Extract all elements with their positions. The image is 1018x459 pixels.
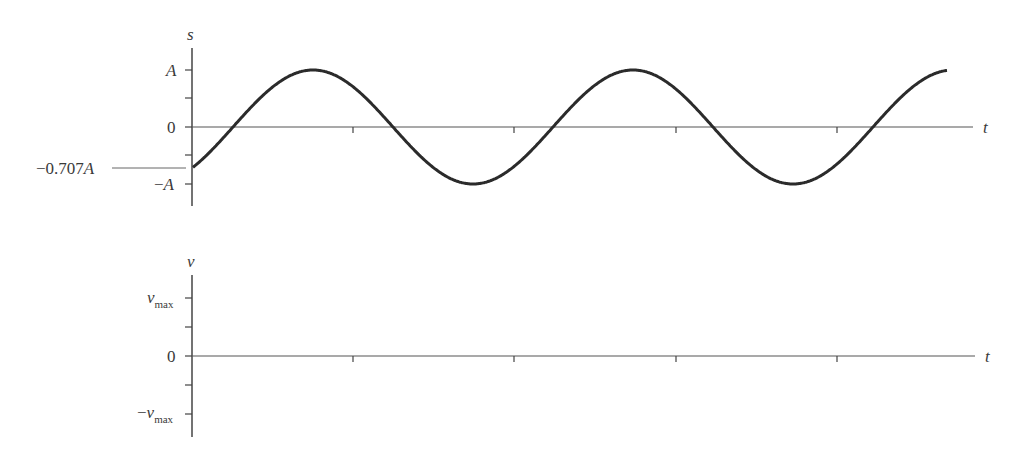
graphs-canvas: s A 0 −A −0.707A t v vmax 0 −vmax t — [0, 0, 1018, 459]
tick-label-A: A — [165, 61, 177, 80]
tick-label-neg-vmax: −vmax — [137, 403, 174, 425]
v-axis-label: v — [187, 252, 195, 271]
velocity-graph: v vmax 0 −vmax t — [137, 252, 991, 437]
v-axis-ticks — [185, 298, 192, 414]
tick-label-negA: −A — [154, 175, 175, 194]
t-axis-top-ticks — [353, 127, 837, 133]
t-axis-label-top: t — [983, 118, 989, 137]
s-axis-ticks — [185, 70, 192, 184]
tick-label-zero-bottom: 0 — [167, 347, 176, 366]
tick-label-zero-top: 0 — [167, 118, 176, 137]
t-axis-label-bottom: t — [985, 347, 991, 366]
s-axis-label: s — [187, 25, 194, 44]
position-graph: s A 0 −A −0.707A t — [36, 25, 989, 206]
tick-label-vmax: vmax — [147, 288, 174, 310]
annotation-0707A: −0.707A — [36, 159, 95, 178]
t-axis-bottom-ticks — [353, 356, 837, 362]
